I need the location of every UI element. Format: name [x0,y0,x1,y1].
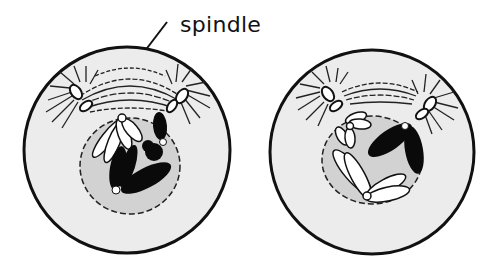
right-cell [270,50,474,254]
left-centromere-1 [160,139,167,146]
cell-illustrations [0,0,487,269]
mitosis-diagram: spindle [0,0,487,269]
left-cell [24,47,230,253]
right-centromere-black [402,123,409,130]
left-centromere-2 [112,186,120,194]
